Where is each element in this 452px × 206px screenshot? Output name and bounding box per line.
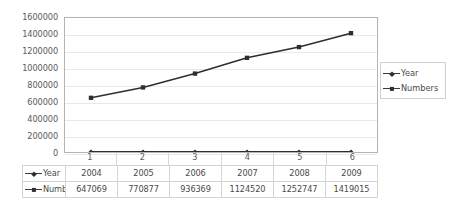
y-tick-label: 1200000	[22, 47, 58, 55]
data-point-square	[89, 96, 93, 100]
data-point-square	[297, 45, 301, 49]
x-tick-cell: 5	[273, 153, 326, 165]
series-numbers	[89, 31, 353, 100]
table-cell: 2008	[274, 166, 326, 182]
data-point-square	[141, 85, 145, 89]
y-tick-label: 1600000	[22, 13, 58, 21]
table-cell: 647069	[66, 182, 118, 198]
table-cell: 2007	[222, 166, 274, 182]
y-tick-label: 1400000	[22, 30, 58, 38]
plot-area	[64, 17, 378, 153]
legend-label: Numbers	[401, 84, 438, 93]
x-tick-cell: 3	[168, 153, 221, 165]
x-axis: 123456	[64, 153, 378, 165]
x-tick-label: 2	[140, 153, 145, 162]
table-row: Year200420052006200720082009	[23, 166, 378, 182]
y-tick-label: 200000	[27, 132, 58, 140]
table-cell: 1252747	[274, 182, 326, 198]
table-cell: 936369	[170, 182, 222, 198]
table-cell: 1419015	[326, 182, 378, 198]
y-tick-label: 600000	[27, 98, 58, 106]
table-cell: 2004	[66, 166, 118, 182]
chart-legend: YearNumbers	[380, 62, 446, 99]
data-point-square	[245, 56, 249, 60]
table-cell: 2006	[170, 166, 222, 182]
legend-entry-year[interactable]: Year	[383, 66, 443, 81]
x-tick-label: 5	[297, 153, 302, 162]
table-row-label: Numbers	[43, 185, 66, 194]
series-lines	[65, 18, 377, 152]
y-tick-label: 1000000	[22, 64, 58, 72]
y-tick-label: 0	[53, 149, 58, 157]
y-tick-label: 800000	[27, 81, 58, 89]
x-tick-cell: 6	[326, 153, 379, 165]
x-tick-label: 3	[192, 153, 197, 162]
series-year	[89, 149, 354, 152]
chart-data-table: Year200420052006200720082009Numbers64706…	[22, 165, 378, 198]
square-marker-icon	[25, 185, 42, 194]
series-line	[91, 33, 351, 98]
diamond-marker-icon	[25, 169, 42, 178]
table-cell: 2005	[118, 166, 170, 182]
y-tick-label: 400000	[27, 115, 58, 123]
table-row-label: Year	[43, 169, 60, 178]
x-tick-cell: 4	[221, 153, 274, 165]
x-tick-label: 1	[87, 153, 92, 162]
x-tick-cell: 1	[64, 153, 116, 165]
data-point-square	[193, 71, 197, 75]
line-chart-with-data-table: 1600000140000012000001000000800000600000…	[0, 0, 452, 206]
table-row-header: Year	[23, 166, 66, 182]
square-marker-icon	[383, 84, 400, 93]
legend-entry-numbers[interactable]: Numbers	[383, 81, 443, 96]
y-axis: 1600000140000012000001000000800000600000…	[0, 12, 62, 158]
table-row-header: Numbers	[23, 182, 66, 198]
table-cell: 2009	[326, 166, 378, 182]
diamond-marker-icon	[383, 69, 400, 78]
x-tick-label: 4	[245, 153, 250, 162]
x-tick-cell: 2	[116, 153, 169, 165]
legend-label: Year	[401, 69, 418, 78]
table-row: Numbers647069770877936369112452012527471…	[23, 182, 378, 198]
table-cell: 1124520	[222, 182, 274, 198]
x-tick-label: 6	[350, 153, 355, 162]
table-cell: 770877	[118, 182, 170, 198]
data-point-square	[349, 31, 353, 35]
data-table-body: Year200420052006200720082009Numbers64706…	[23, 166, 378, 198]
